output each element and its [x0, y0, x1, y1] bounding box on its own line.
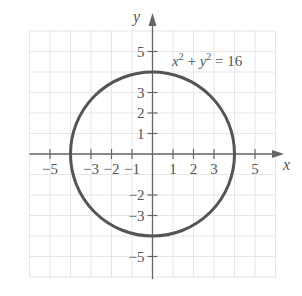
y-tick-label: 3	[137, 85, 145, 101]
y-tick-label: −3	[129, 208, 145, 224]
x-tick-label: 5	[251, 161, 259, 177]
circle-graph: −5−3−2−112355321−2−3−5 x y x2 + y2 = 16	[0, 0, 302, 296]
x-tick-label: 1	[169, 161, 177, 177]
y-axis-label: y	[131, 8, 141, 26]
x-tick-label: −5	[42, 161, 58, 177]
equation-label: x2 + y2 = 16	[171, 51, 243, 69]
x-tick-label: −2	[104, 161, 120, 177]
x-tick-label: −1	[124, 161, 140, 177]
x-tick-label: −3	[83, 161, 99, 177]
y-axis-arrow-icon	[149, 13, 157, 26]
axes	[30, 13, 285, 279]
y-tick-label: 2	[137, 105, 145, 121]
y-tick-label: −5	[129, 249, 145, 265]
x-tick-label: 3	[210, 161, 218, 177]
y-tick-label: 1	[137, 126, 145, 142]
y-tick-label: −2	[129, 187, 145, 203]
x-tick-label: 2	[190, 161, 198, 177]
y-tick-label: 5	[137, 44, 145, 60]
x-axis-label: x	[282, 156, 290, 173]
